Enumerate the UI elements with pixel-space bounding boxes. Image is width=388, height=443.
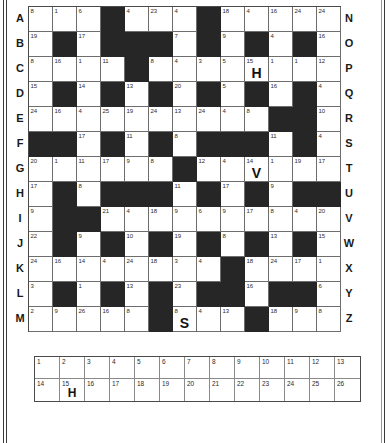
grid-cell[interactable]: 4	[173, 57, 197, 82]
grid-cell[interactable]: 8	[245, 107, 269, 132]
grid-cell[interactable]: 4	[77, 107, 101, 132]
crossword-grid[interactable]: 8164234184162424191779416816111843515H11…	[28, 6, 341, 332]
grid-cell[interactable]: 6	[77, 7, 101, 32]
letter-bank-cell[interactable]: 19	[160, 379, 185, 401]
letter-bank-cell[interactable]: 1	[35, 357, 60, 379]
grid-cell[interactable]: 4	[197, 307, 221, 332]
letter-bank-cell[interactable]: 2	[60, 357, 85, 379]
grid-cell[interactable]: 19	[125, 107, 149, 132]
grid-cell[interactable]: 13	[221, 307, 245, 332]
grid-cell[interactable]: 24	[317, 7, 341, 32]
grid-cell[interactable]: 14	[77, 257, 101, 282]
grid-cell[interactable]: 20	[29, 157, 53, 182]
letter-bank-cell[interactable]: 15H	[60, 379, 85, 401]
grid-cell[interactable]: 9	[173, 207, 197, 232]
grid-cell[interactable]: 17	[77, 132, 101, 157]
grid-cell[interactable]: 1	[53, 7, 77, 32]
grid-cell[interactable]: 19	[293, 157, 317, 182]
grid-cell[interactable]: 10	[317, 107, 341, 132]
grid-cell[interactable]: 17	[293, 257, 317, 282]
grid-cell[interactable]: 24	[197, 107, 221, 132]
grid-cell[interactable]: 11	[101, 57, 125, 82]
grid-cell[interactable]: 1	[293, 57, 317, 82]
grid-cell[interactable]: 18	[149, 207, 173, 232]
grid-cell[interactable]: 16	[317, 32, 341, 57]
grid-cell[interactable]: 13	[173, 107, 197, 132]
grid-cell[interactable]: 8	[317, 307, 341, 332]
grid-cell[interactable]: 9	[77, 232, 101, 257]
letter-bank-grid[interactable]: 123456789101112131415H161718192021222324…	[34, 356, 361, 402]
letter-bank-cell[interactable]: 17	[110, 379, 135, 401]
grid-cell[interactable]: 4	[317, 82, 341, 107]
grid-cell[interactable]: 18	[245, 257, 269, 282]
grid-cell[interactable]: 5	[221, 57, 245, 82]
grid-cell[interactable]: 23	[149, 7, 173, 32]
grid-cell[interactable]: 4	[269, 32, 293, 57]
grid-cell[interactable]: 20	[317, 207, 341, 232]
grid-cell[interactable]: 17	[77, 32, 101, 57]
grid-cell[interactable]: 16	[53, 107, 77, 132]
grid-cell[interactable]: 16	[245, 282, 269, 307]
grid-cell[interactable]: 16	[269, 82, 293, 107]
grid-cell[interactable]: 12	[197, 157, 221, 182]
letter-bank-cell[interactable]: 22	[235, 379, 260, 401]
grid-cell[interactable]: 21	[101, 207, 125, 232]
grid-cell[interactable]: 9	[29, 207, 53, 232]
letter-bank-cell[interactable]: 13	[335, 357, 360, 379]
grid-cell[interactable]: 1	[77, 57, 101, 82]
grid-cell[interactable]: 8	[269, 207, 293, 232]
grid-cell[interactable]: 11	[77, 157, 101, 182]
letter-bank-cell[interactable]: 26	[335, 379, 360, 401]
grid-cell[interactable]: 5	[221, 82, 245, 107]
grid-cell[interactable]: 18	[149, 257, 173, 282]
grid-cell[interactable]: 4	[293, 207, 317, 232]
letter-bank-cell[interactable]: 7	[185, 357, 210, 379]
grid-cell[interactable]: 11	[269, 132, 293, 157]
letter-bank-cell[interactable]: 18	[135, 379, 160, 401]
grid-cell[interactable]: 13	[125, 282, 149, 307]
grid-cell[interactable]: 24	[125, 257, 149, 282]
grid-cell[interactable]: 23	[173, 282, 197, 307]
letter-bank-cell[interactable]: 10	[260, 357, 285, 379]
grid-cell[interactable]: 17	[29, 182, 53, 207]
grid-cell[interactable]: 4	[125, 7, 149, 32]
grid-cell[interactable]: 8	[149, 157, 173, 182]
grid-cell[interactable]: 18	[221, 7, 245, 32]
grid-cell[interactable]: 4	[173, 7, 197, 32]
letter-bank-cell[interactable]: 25	[310, 379, 335, 401]
grid-cell[interactable]: 10	[125, 232, 149, 257]
grid-cell[interactable]: 9	[221, 32, 245, 57]
grid-cell[interactable]: 16	[101, 307, 125, 332]
letter-bank-cell[interactable]: 24	[285, 379, 310, 401]
grid-cell[interactable]: 4	[197, 257, 221, 282]
grid-cell[interactable]: 9	[125, 157, 149, 182]
letter-bank-cell[interactable]: 12	[310, 357, 335, 379]
grid-cell[interactable]: 1	[53, 157, 77, 182]
grid-cell[interactable]: 8	[173, 132, 197, 157]
letter-bank-cell[interactable]: 8	[210, 357, 235, 379]
grid-cell[interactable]: 16	[269, 7, 293, 32]
grid-cell[interactable]: 26	[77, 307, 101, 332]
grid-cell[interactable]: 4	[221, 107, 245, 132]
grid-cell[interactable]: 8	[221, 232, 245, 257]
grid-cell[interactable]: 15	[317, 232, 341, 257]
grid-cell[interactable]: 24	[29, 107, 53, 132]
grid-cell[interactable]: 3	[29, 282, 53, 307]
grid-cell[interactable]: 15	[29, 82, 53, 107]
grid-cell[interactable]: 4	[317, 132, 341, 157]
grid-cell[interactable]: 24	[293, 7, 317, 32]
grid-cell[interactable]: 9	[53, 307, 77, 332]
grid-cell[interactable]: 14V	[245, 157, 269, 182]
grid-cell[interactable]: 19	[29, 32, 53, 57]
grid-cell[interactable]: 16	[53, 257, 77, 282]
grid-cell[interactable]: 7	[173, 32, 197, 57]
grid-cell[interactable]: 1	[77, 282, 101, 307]
grid-cell[interactable]: 18	[269, 307, 293, 332]
grid-cell[interactable]: 2	[29, 307, 53, 332]
grid-cell[interactable]: 4	[101, 257, 125, 282]
grid-cell[interactable]: 17	[101, 157, 125, 182]
grid-cell[interactable]: 13	[269, 232, 293, 257]
letter-bank-cell[interactable]: 11	[285, 357, 310, 379]
letter-bank-cell[interactable]: 4	[110, 357, 135, 379]
grid-cell[interactable]: 17	[245, 207, 269, 232]
